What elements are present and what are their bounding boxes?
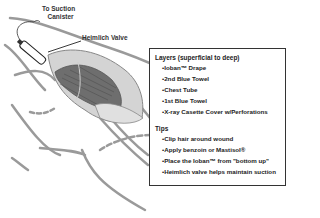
layer-item: •2nd Blue Towel <box>155 73 281 84</box>
layer-item: •Ioban™ Drape <box>155 62 281 73</box>
tip-item: •Place the Ioban™ from "bottom up" <box>155 155 281 166</box>
legend-box: Layers (superficial to deep) •Ioban™ Dra… <box>149 48 286 186</box>
tips-title: Tips <box>155 124 281 133</box>
tip-item: •Clip hair around wound <box>155 133 281 144</box>
suction-label-line1: To Suction <box>42 5 75 13</box>
tip-item: •Heimlich valve helps maintain suction <box>155 166 281 177</box>
layers-title: Layers (superficial to deep) <box>155 53 281 62</box>
tip-item: •Apply benzoin or Mastisol® <box>155 144 281 155</box>
suction-label: To Suction Canister <box>42 5 75 21</box>
suction-label-line2: Canister <box>42 13 75 21</box>
layer-item: •1st Blue Towel <box>155 95 281 106</box>
heimlich-valve-label: Heimlich Valve <box>82 34 128 42</box>
layer-item: •X-ray Casette Cover w/Perforations <box>155 106 281 117</box>
layer-item: •Chest Tube <box>155 84 281 95</box>
